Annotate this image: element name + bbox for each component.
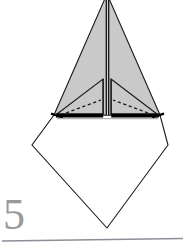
origami-step-figure: 5 (0, 0, 185, 251)
lower-white-diamond (32, 115, 168, 228)
bottom-separator-rule (2, 239, 183, 242)
step-number: 5 (3, 193, 25, 237)
origami-diagram-canvas (0, 0, 185, 251)
